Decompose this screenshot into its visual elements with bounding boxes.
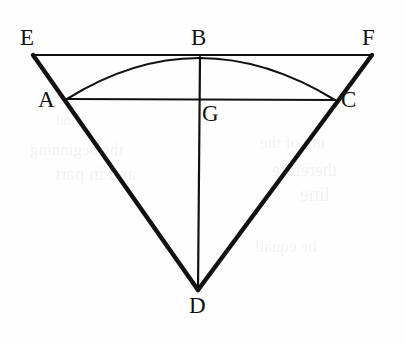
- geometry-figure: the beginning and in part ure of the the…: [0, 0, 405, 345]
- vertex-label-F: F: [362, 26, 375, 49]
- vertex-label-B: B: [191, 26, 206, 49]
- vertex-label-A: A: [38, 88, 55, 111]
- segment-AC: [67, 99, 335, 100]
- segment-BD: [198, 57, 200, 290]
- segment-ED: [33, 55, 198, 290]
- vertex-label-E: E: [20, 26, 34, 49]
- vertex-label-G: G: [202, 102, 219, 125]
- vertex-label-D: D: [189, 294, 206, 317]
- vertex-label-C: C: [341, 88, 356, 111]
